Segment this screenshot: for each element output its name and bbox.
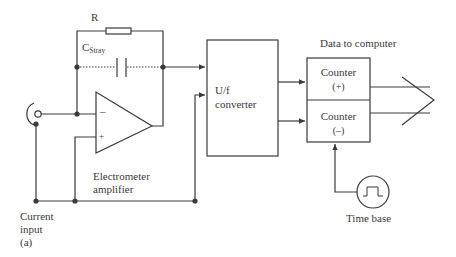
counter-minus-name: Counter <box>307 110 370 123</box>
time-base-clock <box>357 176 389 208</box>
converter-label-1: U/f <box>215 84 230 97</box>
counter-minus-sign: (–) <box>307 124 370 137</box>
current-input-label-2: input <box>20 223 43 236</box>
current-input-label-3: (a) <box>20 236 32 249</box>
input-connector <box>27 103 41 125</box>
opamp-minus-label: – <box>100 105 106 118</box>
stray-capacitor <box>77 58 163 77</box>
electrometer-amplifier <box>96 92 152 153</box>
opamp-plus-label: + <box>99 130 104 143</box>
stray-capacitance-label: CStray <box>82 41 105 57</box>
converter-label-2: converter <box>215 98 257 111</box>
counter-plus-sign: (+) <box>307 80 370 93</box>
stray-cap-sub: Stray <box>89 46 105 55</box>
data-output-arrow <box>370 77 434 125</box>
current-input-label-1: Current <box>20 210 54 223</box>
amplifier-label-1: Electrometer <box>93 170 150 183</box>
amplifier-label-2: amplifier <box>93 183 133 196</box>
data-to-computer-label: Data to computer <box>320 37 396 50</box>
time-base-label: Time base <box>346 212 391 225</box>
resistor-label: R <box>91 11 98 24</box>
counter-plus-name: Counter <box>307 66 370 79</box>
